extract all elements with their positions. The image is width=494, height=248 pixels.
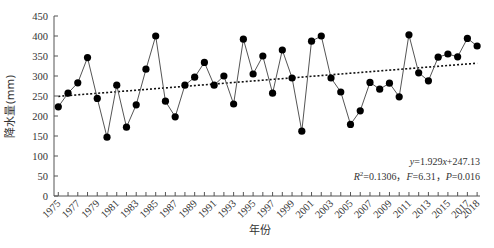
data-point-marker: [94, 95, 101, 102]
y-tick-label: 400: [32, 31, 48, 42]
y-axis-title: 降水量(mm): [3, 74, 17, 137]
data-point-marker: [211, 82, 218, 89]
regression-equation: y=1.929x+247.13: [280, 155, 480, 168]
x-tick-label: 2009: [371, 198, 394, 221]
data-point-marker: [191, 74, 198, 81]
x-tick-label: 1977: [60, 198, 83, 221]
data-point-marker: [74, 79, 81, 86]
x-tick-label: 2005: [332, 198, 355, 221]
data-point-marker: [64, 90, 71, 97]
data-point-marker: [279, 46, 286, 53]
data-point-marker: [318, 32, 325, 39]
data-point-marker: [123, 124, 130, 131]
x-tick-label: 1991: [196, 198, 219, 221]
data-point-marker: [55, 103, 62, 110]
trend-line: [58, 63, 477, 96]
x-tick-label: 1997: [254, 198, 277, 221]
y-tick-label: 100: [32, 151, 48, 162]
x-tick-label: 1993: [215, 198, 238, 221]
y-tick-label: 350: [32, 51, 48, 62]
data-point-marker: [474, 42, 481, 49]
y-tick-label: 50: [38, 171, 49, 182]
data-point-marker: [425, 77, 432, 84]
regression-stats: R2=0.1306，F=6.31，P=0.016: [280, 168, 480, 183]
precipitation-series: [55, 31, 481, 141]
x-tick-label: 2003: [313, 198, 336, 221]
x-tick-label: 2007: [352, 198, 375, 221]
data-point-marker: [308, 38, 315, 45]
data-point-marker: [113, 82, 120, 89]
x-tick-label: 1989: [176, 198, 199, 221]
data-point-marker: [288, 74, 295, 81]
data-point-marker: [376, 86, 383, 93]
data-point-marker: [84, 54, 91, 61]
y-tick-label: 300: [32, 71, 48, 82]
data-point-marker: [396, 93, 403, 100]
y-tick-label: 200: [32, 111, 48, 122]
data-point-marker: [142, 66, 149, 73]
y-tick-label: 0: [43, 191, 48, 202]
data-point-marker: [327, 74, 334, 81]
data-point-marker: [259, 52, 266, 59]
x-tick-label: 1981: [99, 198, 122, 221]
y-tick-label: 150: [32, 131, 48, 142]
data-point-marker: [298, 128, 305, 135]
x-axis: 1975197719791981198319851987198919911993…: [40, 192, 481, 220]
data-point-marker: [172, 113, 179, 120]
data-point-marker: [269, 90, 276, 97]
x-tick-label: 2011: [391, 198, 413, 220]
x-tick-label: 2001: [293, 198, 316, 221]
data-point-marker: [347, 121, 354, 128]
x-tick-label: 1979: [79, 198, 102, 221]
x-tick-label: 1985: [137, 198, 160, 221]
x-tick-label: 1999: [274, 198, 297, 221]
data-point-marker: [357, 107, 364, 114]
y-axis: 050100150200250300350400450: [32, 11, 58, 202]
data-point-marker: [133, 101, 140, 108]
x-axis-title: 年份: [249, 223, 271, 237]
data-point-marker: [454, 53, 461, 60]
data-point-marker: [152, 32, 159, 39]
data-point-marker: [240, 36, 247, 43]
regression-annotation: y=1.929x+247.13 R2=0.1306，F=6.31，P=0.016: [280, 155, 480, 183]
data-point-marker: [366, 79, 373, 86]
data-point-marker: [162, 98, 169, 105]
data-point-marker: [181, 82, 188, 89]
data-point-marker: [415, 69, 422, 76]
data-point-marker: [230, 100, 237, 107]
x-tick-label: 2013: [410, 198, 433, 221]
data-point-marker: [464, 35, 471, 42]
data-point-marker: [201, 59, 208, 66]
data-point-marker: [250, 70, 257, 77]
data-point-marker: [220, 72, 227, 79]
x-tick-label: 2015: [430, 198, 453, 221]
data-point-marker: [435, 54, 442, 61]
data-point-marker: [405, 31, 412, 38]
data-point-marker: [337, 88, 344, 95]
data-point-marker: [103, 134, 110, 141]
data-point-marker: [444, 50, 451, 57]
data-point-marker: [386, 80, 393, 87]
x-tick-label: 1983: [118, 198, 141, 221]
x-tick-label: 1987: [157, 198, 180, 221]
x-tick-label: 1995: [235, 198, 258, 221]
precipitation-chart: 050100150200250300350400450 197519771979…: [0, 0, 494, 248]
y-tick-label: 450: [32, 11, 48, 22]
y-tick-label: 250: [32, 91, 48, 102]
